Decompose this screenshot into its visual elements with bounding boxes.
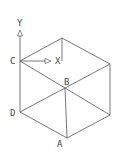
edge-b-right-bottom — [65, 88, 110, 115]
vertex-label-b: B — [64, 77, 69, 87]
edge-b-right — [65, 64, 110, 88]
x-axis-arrow-icon — [45, 59, 51, 64]
y-axis-label: Y — [17, 18, 23, 28]
vertex-label-c: C — [10, 56, 15, 66]
edge-b-a — [65, 88, 67, 138]
edge-d-a — [20, 112, 67, 138]
edge-d-b — [20, 88, 65, 112]
edge-top-right — [62, 38, 110, 64]
x-axis-label: X — [55, 56, 61, 66]
edge-a-right-bottom — [67, 115, 110, 138]
y-axis-arrow-icon — [18, 30, 23, 36]
isometric-cube-diagram: Y X C B D A — [0, 0, 120, 153]
vertex-label-d: D — [10, 108, 15, 118]
vertex-label-a: A — [57, 139, 63, 149]
